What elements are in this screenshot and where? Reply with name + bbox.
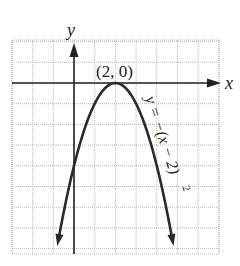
equation-label-group: y = −(x − 2) 2: [141, 91, 194, 196]
vertex-label: (2, 0): [96, 62, 133, 81]
curve-right-arrow-icon: [167, 234, 175, 247]
curve-left-arrow-icon: [56, 234, 64, 247]
x-axis-label: x: [224, 73, 233, 93]
parabola-chart: y x (2, 0) y = −(x − 2) 2: [0, 0, 240, 266]
equation-exponent: 2: [180, 184, 193, 193]
y-axis-label: y: [65, 20, 75, 40]
y-axis-arrow-icon: [70, 43, 79, 57]
